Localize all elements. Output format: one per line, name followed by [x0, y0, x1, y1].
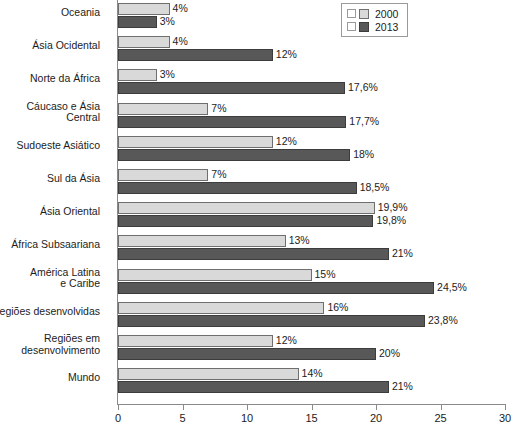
bar-value-label: 3% [160, 15, 175, 27]
bar-2013 [118, 116, 346, 128]
category-label: Regiões em desenvolvimento [0, 333, 100, 356]
category-label: América Latina e Caribe [0, 267, 100, 290]
x-tick [312, 404, 313, 410]
bar-value-label: 12% [276, 334, 297, 346]
chart-row: Mundo14%21% [118, 366, 505, 399]
bar-chart: Oceania4%3%Ásia Ocidental4%12%Norte da Á… [0, 0, 518, 437]
bar-value-label: 12% [276, 135, 297, 147]
bar-2013 [118, 381, 389, 393]
chart-row: Sul da Ásia7%18,5% [118, 167, 505, 200]
bar-value-label: 4% [173, 2, 188, 14]
x-tick-label: 0 [115, 412, 121, 424]
bar-2000 [118, 69, 157, 81]
chart-row: Regiões desenvolvidas16%23,8% [118, 300, 505, 333]
chart-row: Sudoeste Asiático12%18% [118, 134, 505, 167]
bar-value-label: 16% [327, 301, 348, 313]
x-tick-label: 30 [499, 412, 511, 424]
bar-2000 [118, 36, 170, 48]
bar-value-label: 15% [315, 268, 336, 280]
category-label: África Subsaariana [0, 239, 100, 251]
bar-value-label: 18,5% [360, 181, 390, 193]
x-tick-label: 20 [370, 412, 382, 424]
x-tick [441, 404, 442, 410]
bar-value-label: 18% [353, 148, 374, 160]
x-tick [118, 404, 119, 410]
bar-value-label: 17,6% [348, 81, 378, 93]
bar-2000 [118, 368, 299, 380]
bar-2000 [118, 3, 170, 15]
chart-row: Ásia Ocidental4%12% [118, 34, 505, 67]
x-tick-label: 25 [434, 412, 446, 424]
legend-swatch-2013-icon [359, 22, 369, 32]
x-tick [183, 404, 184, 410]
bar-2000 [118, 169, 208, 181]
category-label: Sul da Ásia [0, 173, 100, 185]
bar-2000 [118, 302, 324, 314]
x-tick-label: 15 [305, 412, 317, 424]
bar-value-label: 7% [211, 168, 226, 180]
category-label: Norte da África [0, 73, 100, 85]
bar-2013 [118, 315, 425, 327]
legend-label-2000: 2000 [375, 8, 398, 20]
x-tick [376, 404, 377, 410]
legend-swatch-2000-icon [359, 9, 369, 19]
bar-2000 [118, 103, 208, 115]
bar-value-label: 7% [211, 102, 226, 114]
legend-outer-box-icon [347, 22, 356, 31]
chart-row: Regiões em desenvolvimento12%20% [118, 333, 505, 366]
bar-value-label: 21% [392, 247, 413, 259]
bar-2013 [118, 82, 345, 94]
chart-row: Ásia Oriental19,9%19,8% [118, 200, 505, 233]
legend-label-2013: 2013 [375, 21, 398, 33]
bar-value-label: 21% [392, 380, 413, 392]
chart-row: África Subsaariana13%21% [118, 233, 505, 266]
bar-value-label: 23,8% [428, 314, 458, 326]
bar-value-label: 24,5% [437, 281, 467, 293]
bar-value-label: 14% [302, 367, 323, 379]
bar-value-label: 20% [379, 347, 400, 359]
plot-area: Oceania4%3%Ásia Ocidental4%12%Norte da Á… [118, 0, 505, 404]
category-label: Oceania [0, 7, 100, 19]
legend-item-2013: 2013 [347, 20, 398, 33]
bar-value-label: 19,8% [376, 214, 406, 226]
category-label: Mundo [0, 372, 100, 384]
bar-2013 [118, 215, 373, 227]
category-label: Cáucaso e Ásia Central [0, 101, 100, 124]
bar-value-label: 3% [160, 68, 175, 80]
bar-2000 [118, 136, 273, 148]
x-tick-label: 10 [241, 412, 253, 424]
bar-value-label: 12% [276, 48, 297, 60]
bar-2013 [118, 348, 376, 360]
x-tick [505, 404, 506, 410]
chart-row: Cáucaso e Ásia Central7%17,7% [118, 101, 505, 134]
chart-row: Norte da África3%17,6% [118, 67, 505, 100]
bar-value-label: 17,7% [349, 115, 379, 127]
bar-2013 [118, 182, 357, 194]
bar-2013 [118, 149, 350, 161]
bar-2013 [118, 282, 434, 294]
bar-2000 [118, 202, 375, 214]
chart-legend: 2000 2013 [341, 3, 408, 37]
legend-item-2000: 2000 [347, 7, 398, 20]
category-label: Ásia Oriental [0, 206, 100, 218]
category-label: Sudoeste Asiático [0, 140, 100, 152]
chart-row: Oceania4%3% [118, 1, 505, 34]
bar-value-label: 19,9% [378, 201, 408, 213]
x-tick [247, 404, 248, 410]
bar-2013 [118, 248, 389, 260]
category-label: Ásia Ocidental [0, 40, 100, 52]
bar-value-label: 4% [173, 35, 188, 47]
bar-value-label: 13% [289, 234, 310, 246]
chart-row: América Latina e Caribe15%24,5% [118, 267, 505, 300]
bar-2000 [118, 235, 286, 247]
category-label: Regiões desenvolvidas [0, 306, 100, 318]
legend-outer-box-icon [347, 9, 356, 18]
bar-2013 [118, 16, 157, 28]
bar-2000 [118, 269, 312, 281]
x-tick-label: 5 [179, 412, 185, 424]
bar-2013 [118, 49, 273, 61]
bar-2000 [118, 335, 273, 347]
